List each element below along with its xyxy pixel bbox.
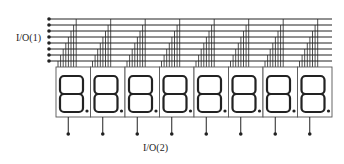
common-terminal-dot [101,132,105,136]
decimal-point [292,109,295,112]
common-terminal-dot [273,132,277,136]
led-display-diagram: I/O(1) I/O(2) [0,0,344,164]
decimal-point [189,109,192,112]
io2-label: I/O(2) [143,143,168,153]
decimal-point [85,109,88,112]
decimal-point [223,109,226,112]
bus-terminal-dot [47,17,51,21]
decimal-point [258,109,261,112]
io1-label: I/O(1) [16,33,41,43]
bus-terminal-dot [47,23,51,27]
common-terminal-dot [135,132,139,136]
bus-terminal-dot [47,59,51,63]
common-terminal-dot [66,132,70,136]
bus-terminal-dot [47,47,51,51]
diagram-canvas [0,0,344,164]
common-terminal-dot [204,132,208,136]
decimal-point [154,109,157,112]
bus-terminal-dot [47,41,51,45]
common-terminal-dot [308,132,312,136]
common-terminal-dot [239,132,243,136]
decimal-point [327,109,330,112]
common-terminal-dot [170,132,174,136]
bus-terminal-dot [47,29,51,33]
decimal-point [120,109,123,112]
bus-terminal-dot [47,35,51,39]
bus-terminal-dot [47,53,51,57]
